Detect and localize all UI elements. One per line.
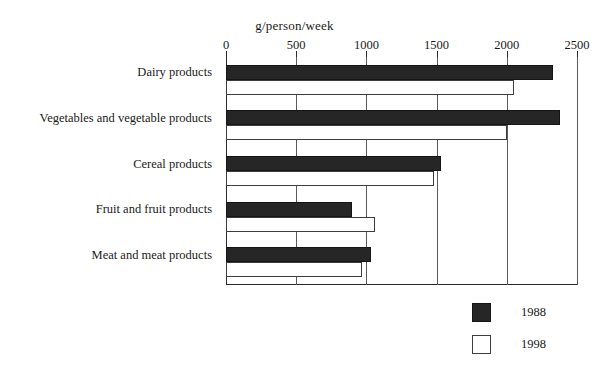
x-axis-tick-labels: 05001000150020002500 bbox=[0, 38, 611, 54]
category-label: Dairy products bbox=[137, 65, 220, 80]
x-tickmark bbox=[577, 51, 578, 57]
bar-1998-2 bbox=[226, 171, 434, 186]
bar-1998-3 bbox=[226, 217, 375, 232]
x-axis-line bbox=[226, 284, 577, 285]
bar-chart-figure: g/person/week 05001000150020002500 Dairy… bbox=[0, 0, 611, 373]
bar-1998-1 bbox=[226, 125, 507, 140]
axis-title: g/person/week bbox=[0, 18, 611, 34]
x-tickmark bbox=[507, 51, 508, 57]
legend-label-1988: 1988 bbox=[521, 305, 546, 320]
bar-1988-3 bbox=[226, 202, 352, 217]
legend-swatch-1998 bbox=[472, 335, 491, 354]
category-axis-labels: Dairy productsVegetables and vegetable p… bbox=[0, 57, 220, 285]
category-label: Vegetables and vegetable products bbox=[39, 110, 220, 125]
category-label: Meat and meat products bbox=[92, 247, 220, 262]
category-label: Fruit and fruit products bbox=[96, 202, 220, 217]
bar-1988-0 bbox=[226, 65, 553, 80]
axis-title-text: g/person/week bbox=[255, 18, 333, 34]
bar-1988-1 bbox=[226, 110, 560, 125]
legend-swatch-1988 bbox=[472, 303, 491, 322]
legend-item-1998: 1998 bbox=[472, 335, 546, 354]
bar-1998-0 bbox=[226, 80, 514, 95]
bar-1988-4 bbox=[226, 247, 371, 262]
bar-1988-2 bbox=[226, 156, 441, 171]
category-label: Cereal products bbox=[133, 156, 220, 171]
legend-label-1998: 1998 bbox=[521, 337, 546, 352]
legend-item-1988: 1988 bbox=[472, 303, 546, 322]
legend: 19881998 bbox=[472, 303, 592, 365]
x-tickmark bbox=[437, 51, 438, 57]
x-tickmark bbox=[296, 51, 297, 57]
bar-1998-4 bbox=[226, 262, 362, 277]
x-tickmark bbox=[366, 51, 367, 57]
x-tickmark bbox=[226, 51, 227, 57]
gridline bbox=[577, 54, 578, 285]
plot-area bbox=[226, 57, 577, 285]
